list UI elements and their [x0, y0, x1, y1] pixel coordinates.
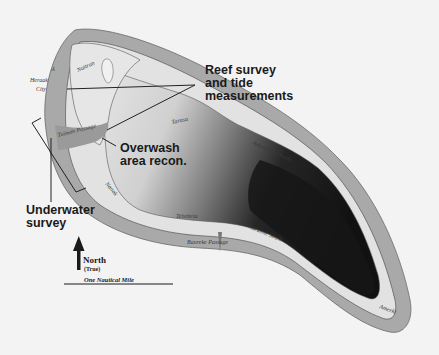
- label-baureke-passage: Baureke Passage: [187, 239, 229, 245]
- callout-overwash-2: area recon.: [120, 154, 187, 168]
- north-true-label: (True): [84, 266, 100, 273]
- callout-underwater-2: survey: [26, 216, 66, 230]
- north-label: North: [83, 255, 106, 265]
- callout-reef-survey-2: and tide: [205, 76, 253, 90]
- label-heraak-city-1: Heraak: [29, 77, 48, 83]
- map-canvas: Nuitran Heraak City Tuiman Passage Taras…: [0, 0, 439, 355]
- atoll-map: Nuitran Heraak City Tuiman Passage Taras…: [0, 0, 439, 355]
- callout-underwater-1: Underwater: [26, 203, 95, 217]
- reef-marker-icon: ⅄: [50, 66, 55, 72]
- scale-label: One Nautical Mile: [84, 276, 134, 283]
- label-heraak-city-2: City: [36, 86, 46, 92]
- label-tehebeia: Tehebeia: [176, 213, 197, 219]
- callout-reef-survey-3: measurements: [205, 89, 293, 103]
- callout-overwash-1: Overwash: [120, 141, 180, 155]
- callout-reef-survey-1: Reef survey: [205, 63, 276, 77]
